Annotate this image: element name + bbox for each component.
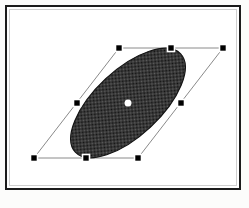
canvas-drawing-area[interactable] [9,9,237,186]
figure-caption [0,192,249,208]
center-anchor[interactable] [125,100,132,107]
handle-top-left[interactable] [116,45,123,52]
handle-middle-left[interactable] [74,100,81,107]
canvas-frame [5,5,241,190]
handle-bottom-left[interactable] [31,155,38,162]
center-anchor-dot[interactable] [125,100,132,107]
handle-bottom-right[interactable] [135,155,142,162]
canvas-vector-layer [9,9,237,186]
screenshot-root [0,0,249,208]
handle-middle-right[interactable] [178,100,185,107]
handle-top-right[interactable] [220,45,227,52]
handle-bottom-center[interactable] [83,155,90,162]
handle-top-center[interactable] [168,45,175,52]
